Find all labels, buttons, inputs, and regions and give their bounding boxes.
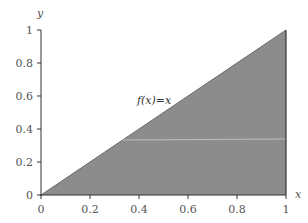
y-tick-label: 0.6 <box>16 90 34 103</box>
x-axis-label: x <box>295 188 302 201</box>
function-annotation: f(x)=x <box>136 94 172 107</box>
x-tick-label: 0.2 <box>81 203 99 216</box>
chart-canvas: 0 0.2 0.4 0.6 0.8 1 0 0.2 0.4 0.6 0.8 1 … <box>0 0 308 223</box>
x-tick-label: 1 <box>283 203 290 216</box>
y-tick-label: 0.4 <box>16 123 34 136</box>
y-tick-label: 0 <box>26 189 33 202</box>
y-tick-label: 1 <box>26 24 33 37</box>
y-axis-label: y <box>36 7 44 20</box>
y-tick-label: 0.8 <box>16 57 34 70</box>
x-tick-label: 0.6 <box>179 203 197 216</box>
x-tick-label: 0.4 <box>130 203 148 216</box>
x-tick-label: 0 <box>38 203 45 216</box>
y-ticks <box>37 30 41 195</box>
y-tick-label: 0.2 <box>16 156 34 169</box>
x-tick-label: 0.8 <box>228 203 246 216</box>
x-ticks <box>41 195 286 199</box>
